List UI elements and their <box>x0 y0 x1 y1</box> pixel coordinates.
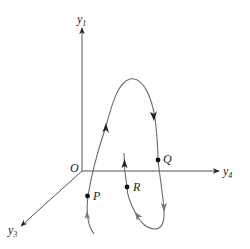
arrow-up-bottom-icon <box>85 211 91 219</box>
axis-label-y1: y1 <box>76 12 86 28</box>
point-r <box>125 185 130 190</box>
axes <box>21 28 219 226</box>
arrow-loop-icon <box>135 212 143 221</box>
axis-label-y4: y4 <box>222 164 232 180</box>
point-label-q: Q <box>163 152 172 166</box>
point-label-r: R <box>132 180 141 194</box>
arrow-up-left-branch-icon <box>103 123 110 133</box>
diagram-canvas: y1 y4 y3 O P Q R <box>0 0 250 249</box>
origin-label: O <box>70 161 79 175</box>
axis-y3 <box>21 171 82 226</box>
axis-label-y3: y3 <box>7 223 17 239</box>
trajectory <box>87 79 164 234</box>
trajectory-curve <box>87 79 164 234</box>
point-label-p: P <box>92 189 101 203</box>
direction-arrows <box>85 111 168 221</box>
point-q <box>156 158 161 163</box>
point-p <box>85 194 90 199</box>
